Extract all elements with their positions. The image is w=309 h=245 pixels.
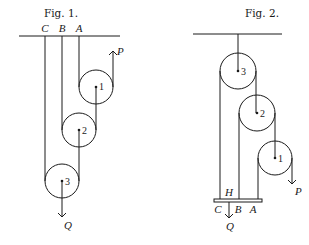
figure-2: Fig. 2. 3 2 1 P H C B A Q — [193, 7, 302, 232]
fig2-bar — [214, 199, 262, 202]
fig2-pulley-2-label: 2 — [260, 108, 265, 119]
fig1-effort-label: P — [116, 45, 124, 57]
fig2-load-label: Q — [226, 220, 234, 232]
fig1-label-a: A — [75, 22, 83, 34]
fig2-bar-label: H — [224, 186, 234, 198]
fig1-pulley-2-label: 2 — [82, 125, 87, 136]
fig2-label-a: A — [249, 203, 257, 215]
fig2-label-b: B — [235, 203, 242, 215]
fig1-load-label: Q — [64, 219, 72, 231]
fig2-pulley-1-axle — [274, 157, 277, 160]
fig2-label-c: C — [214, 203, 222, 215]
fig1-label-b: B — [59, 22, 66, 34]
fig2-pulley-3-axle — [237, 70, 240, 73]
fig1-label-c: C — [41, 22, 49, 34]
fig2-effort-label: P — [294, 185, 302, 197]
fig1-pulley-1-label: 1 — [99, 81, 104, 92]
figure-1-title: Fig. 1. — [44, 7, 78, 19]
fig2-pulley-1-label: 1 — [278, 153, 283, 164]
figure-1: Fig. 1. C B A 1 P 2 3 Q — [19, 7, 124, 231]
fig2-pulley-2-axle — [256, 112, 259, 115]
fig1-pulley-3-label: 3 — [65, 176, 70, 187]
fig2-pulley-3-label: 3 — [241, 66, 246, 77]
figure-2-title: Fig. 2. — [245, 7, 279, 19]
pulley-diagrams: Fig. 1. C B A 1 P 2 3 Q Fig. 2. — [0, 0, 309, 245]
